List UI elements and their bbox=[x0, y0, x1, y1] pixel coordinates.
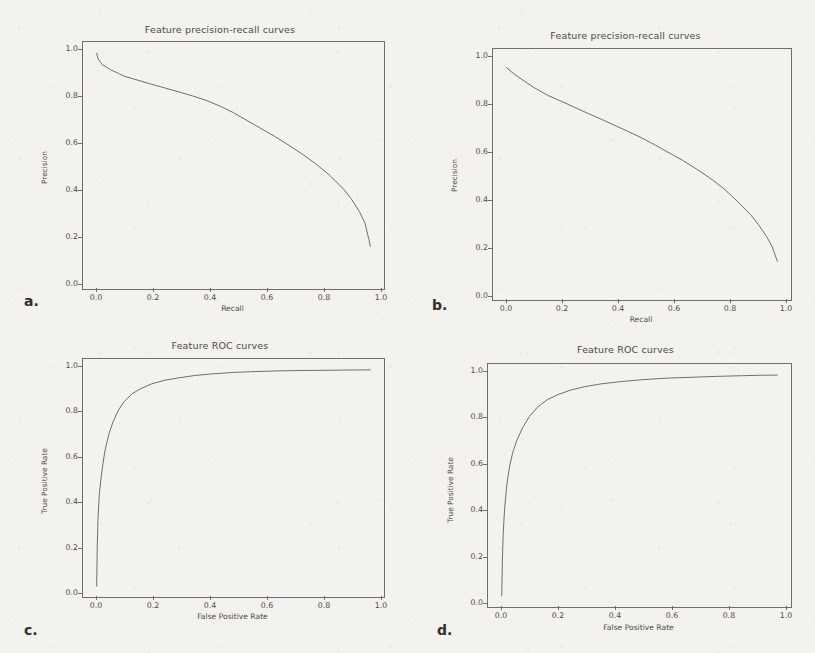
panel-b-ylabel: Precision bbox=[450, 159, 459, 192]
ytick-label: 1.0 bbox=[462, 51, 488, 60]
xtick-label: 1.0 bbox=[366, 293, 396, 302]
panel-letter-a: a. bbox=[24, 293, 39, 309]
ytick-label: 0.6 bbox=[457, 459, 483, 468]
panel-letter-b: b. bbox=[432, 297, 447, 313]
panel-letter-d: d. bbox=[437, 622, 452, 638]
panel-b: Feature precision-recall curves Precisio… bbox=[428, 20, 815, 330]
xtick-label: 0.2 bbox=[138, 601, 168, 610]
xtick-label: 0.8 bbox=[309, 293, 339, 302]
ytick-label: 1.0 bbox=[457, 366, 483, 375]
xtick-label: 0.6 bbox=[252, 601, 282, 610]
panel-c-curve bbox=[83, 359, 384, 597]
xtick-label: 0.8 bbox=[309, 601, 339, 610]
panel-d-title: Feature ROC curves bbox=[458, 344, 793, 355]
panel-b-plot-area bbox=[492, 48, 792, 301]
xtick-label: 0.4 bbox=[195, 293, 225, 302]
ytick-label: 0.4 bbox=[52, 497, 78, 506]
panel-a-xlabel: Recall bbox=[82, 304, 383, 313]
xtick-label: 0.4 bbox=[600, 611, 630, 620]
ytick-label: 0.0 bbox=[52, 588, 78, 597]
xtick-label: 0.6 bbox=[657, 611, 687, 620]
ytick-label: 0.8 bbox=[52, 406, 78, 415]
panel-b-curve bbox=[493, 49, 791, 300]
ytick-label: 0.8 bbox=[457, 412, 483, 421]
ytick-label: 0.4 bbox=[462, 195, 488, 204]
ytick-label: 0.4 bbox=[52, 185, 78, 194]
ytick-label: 0.2 bbox=[52, 232, 78, 241]
xtick-label: 0.4 bbox=[195, 601, 225, 610]
panel-d-plot-area bbox=[487, 363, 792, 608]
xtick-label: 0.6 bbox=[252, 293, 282, 302]
ytick-label: 0.0 bbox=[462, 291, 488, 300]
panel-b-xlabel: Recall bbox=[492, 315, 790, 324]
xtick-label: 0.4 bbox=[603, 304, 633, 313]
xtick-label: 0.6 bbox=[659, 304, 689, 313]
xtick-label: 0.2 bbox=[138, 293, 168, 302]
panel-b-title: Feature precision-recall curves bbox=[458, 30, 793, 41]
panel-c-title: Feature ROC curves bbox=[50, 340, 390, 351]
panel-c-ylabel: True Positive Rate bbox=[40, 448, 49, 514]
xtick-label: 0.0 bbox=[486, 611, 516, 620]
panel-a-plot-area bbox=[82, 41, 385, 290]
xtick-label: 1.0 bbox=[771, 304, 801, 313]
panel-a-title: Feature precision-recall curves bbox=[50, 24, 390, 35]
ytick-label: 0.0 bbox=[457, 598, 483, 607]
panel-c-plot-area bbox=[82, 358, 385, 598]
xtick-label: 0.8 bbox=[715, 304, 745, 313]
xtick-label: 0.8 bbox=[714, 611, 744, 620]
panel-a-ylabel: Precision bbox=[40, 151, 49, 184]
ytick-label: 0.0 bbox=[52, 279, 78, 288]
xtick-label: 0.0 bbox=[81, 293, 111, 302]
ytick-label: 1.0 bbox=[52, 361, 78, 370]
xtick-label: 1.0 bbox=[771, 611, 801, 620]
ytick-label: 0.2 bbox=[52, 543, 78, 552]
panel-letter-c: c. bbox=[24, 622, 38, 638]
ytick-label: 0.6 bbox=[52, 452, 78, 461]
ytick-label: 1.0 bbox=[52, 44, 78, 53]
ytick-label: 0.4 bbox=[457, 505, 483, 514]
panel-d-ylabel: True Positive Rate bbox=[446, 457, 455, 523]
panel-a-curve bbox=[83, 42, 384, 289]
ytick-label: 0.6 bbox=[52, 138, 78, 147]
xtick-label: 0.0 bbox=[81, 601, 111, 610]
panel-a: Feature precision-recall curves Precisio… bbox=[20, 14, 410, 324]
panel-c-xlabel: False Positive Rate bbox=[82, 612, 383, 621]
ytick-label: 0.2 bbox=[457, 552, 483, 561]
panel-d-curve bbox=[488, 364, 791, 607]
panel-c: Feature ROC curves True Positive Rate Fa… bbox=[20, 334, 410, 634]
ytick-label: 0.2 bbox=[462, 243, 488, 252]
ytick-label: 0.6 bbox=[462, 147, 488, 156]
panel-d: Feature ROC curves True Positive Rate Fa… bbox=[428, 338, 815, 638]
xtick-label: 0.2 bbox=[547, 304, 577, 313]
ytick-label: 0.8 bbox=[462, 99, 488, 108]
xtick-label: 0.0 bbox=[491, 304, 521, 313]
xtick-label: 0.2 bbox=[543, 611, 573, 620]
ytick-label: 0.8 bbox=[52, 91, 78, 100]
panel-d-xlabel: False Positive Rate bbox=[487, 623, 790, 632]
xtick-label: 1.0 bbox=[366, 601, 396, 610]
